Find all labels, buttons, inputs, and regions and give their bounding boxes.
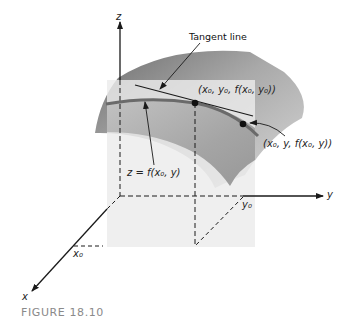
y-axis-label: y [327, 189, 333, 200]
point-p0 [192, 100, 199, 107]
y0-tick-label: y₀ [242, 199, 252, 210]
x-axis [32, 209, 107, 291]
partial-derivative-figure: Tangent line (x₀, y₀, f(x₀, y₀)) (x₀, y,… [0, 0, 348, 328]
figure-caption: FIGURE 18.10 [21, 306, 104, 319]
point-p0-label: (x₀, y₀, f(x₀, y₀)) [198, 84, 276, 95]
point-p-label: (x₀, y, f(x₀, y)) [263, 138, 332, 149]
diagram-canvas [0, 0, 348, 328]
x-axis-label: x [22, 291, 28, 302]
point-p [240, 121, 247, 128]
tangent-line-label: Tangent line [189, 31, 247, 42]
curve-label: z = f(x₀, y) [127, 167, 181, 178]
z-axis-label: z [116, 11, 121, 22]
x0-tick-label: x₀ [73, 248, 83, 259]
